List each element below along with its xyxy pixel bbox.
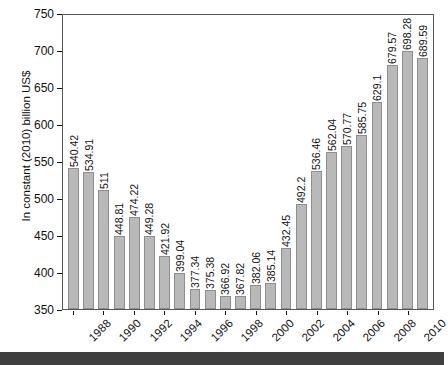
bar-value-label: 562.04 bbox=[326, 119, 338, 151]
bar: 689.59 bbox=[417, 58, 428, 309]
y-tick-mark bbox=[57, 125, 62, 126]
bar-series: 540.42534.91511448.81474.22449.28421.923… bbox=[63, 15, 433, 309]
bar-column: 536.46 bbox=[309, 15, 324, 309]
bar-value-label: 511 bbox=[98, 172, 110, 189]
x-tick-label: 1988 bbox=[86, 317, 113, 344]
x-tick-mark bbox=[225, 311, 226, 315]
x-tick-label: 2008 bbox=[391, 317, 418, 344]
x-tick-label: 1998 bbox=[239, 317, 266, 344]
bar: 511 bbox=[98, 190, 109, 309]
y-tick-label: 550 bbox=[34, 155, 54, 169]
bar-column: 540.42 bbox=[66, 15, 81, 309]
bar-value-label: 382.06 bbox=[250, 252, 262, 284]
bar-column: 698.28 bbox=[400, 15, 415, 309]
x-tick-label: 1996 bbox=[208, 317, 235, 344]
y-tick-label: 650 bbox=[34, 81, 54, 95]
bar: 562.04 bbox=[326, 152, 337, 309]
x-tick-label: 2004 bbox=[330, 317, 357, 344]
bar-column: 382.06 bbox=[248, 15, 263, 309]
bar-value-label: 421.92 bbox=[159, 223, 171, 255]
bar: 385.14 bbox=[265, 283, 276, 309]
bar-value-label: 540.42 bbox=[68, 135, 80, 167]
x-tick-mark bbox=[256, 311, 257, 315]
bar: 474.22 bbox=[129, 217, 140, 309]
x-tick-mark bbox=[164, 311, 165, 315]
bar-value-label: 366.92 bbox=[219, 263, 231, 295]
bar: 449.28 bbox=[144, 236, 155, 309]
x-tick-mark bbox=[103, 311, 104, 315]
bar-column: 492.2 bbox=[294, 15, 309, 309]
bar-column: 399.04 bbox=[172, 15, 187, 309]
y-tick-mark bbox=[57, 273, 62, 274]
bar: 367.82 bbox=[235, 296, 246, 309]
bar-column: 629.1 bbox=[369, 15, 384, 309]
y-tick-mark bbox=[57, 236, 62, 237]
y-tick-label: 750 bbox=[34, 7, 54, 21]
bar: 536.46 bbox=[311, 171, 322, 309]
bar: 399.04 bbox=[174, 273, 185, 309]
bar-column: 679.57 bbox=[385, 15, 400, 309]
bar-value-label: 679.57 bbox=[386, 32, 398, 64]
bar-value-label: 492.2 bbox=[295, 177, 307, 203]
bar: 421.92 bbox=[159, 256, 170, 309]
bar: 629.1 bbox=[372, 102, 383, 309]
bar-value-label: 448.81 bbox=[113, 203, 125, 235]
y-tick-label: 500 bbox=[34, 192, 54, 206]
x-tick-mark bbox=[317, 311, 318, 315]
bar-value-label: 367.82 bbox=[234, 263, 246, 295]
bar-column: 570.77 bbox=[339, 15, 354, 309]
bar-value-label: 449.28 bbox=[143, 202, 155, 234]
bar-column: 421.92 bbox=[157, 15, 172, 309]
y-tick-mark bbox=[57, 199, 62, 200]
bar-value-label: 536.46 bbox=[310, 138, 322, 170]
bar-column: 474.22 bbox=[127, 15, 142, 309]
bar-column: 511 bbox=[96, 15, 111, 309]
bar-value-label: 689.59 bbox=[417, 25, 429, 57]
bar-value-label: 399.04 bbox=[174, 240, 186, 272]
x-tick-label: 2000 bbox=[269, 317, 296, 344]
bar: 377.34 bbox=[190, 289, 201, 309]
x-tick-mark bbox=[134, 311, 135, 315]
bar-value-label: 375.38 bbox=[204, 257, 216, 289]
y-tick-label: 600 bbox=[34, 118, 54, 132]
x-tick-label: 1994 bbox=[178, 317, 205, 344]
bar-column: 562.04 bbox=[324, 15, 339, 309]
bar-value-label: 432.45 bbox=[280, 215, 292, 247]
bar: 534.91 bbox=[83, 172, 94, 309]
plot-area: 540.42534.91511448.81474.22449.28421.923… bbox=[62, 14, 434, 310]
bar-value-label: 385.14 bbox=[265, 250, 277, 282]
bar: 432.45 bbox=[281, 248, 292, 309]
bar-column: 366.92 bbox=[218, 15, 233, 309]
y-tick-mark bbox=[57, 51, 62, 52]
x-tick-mark bbox=[286, 311, 287, 315]
y-tick-mark bbox=[57, 162, 62, 163]
bar-column: 449.28 bbox=[142, 15, 157, 309]
y-tick-label: 350 bbox=[34, 303, 54, 317]
bar: 366.92 bbox=[220, 296, 231, 309]
bar-column: 448.81 bbox=[112, 15, 127, 309]
y-axis-ticks: 350400450500550600650700750 bbox=[20, 0, 54, 349]
bar-value-label: 474.22 bbox=[128, 184, 140, 216]
x-tick-label: 1990 bbox=[117, 317, 144, 344]
x-tick-label: 2002 bbox=[300, 317, 327, 344]
x-tick-mark bbox=[378, 311, 379, 315]
bar-column: 689.59 bbox=[415, 15, 430, 309]
bar: 375.38 bbox=[205, 290, 216, 309]
y-tick-label: 700 bbox=[34, 44, 54, 58]
y-tick-mark bbox=[57, 88, 62, 89]
bar-value-label: 629.1 bbox=[371, 75, 383, 101]
bar-column: 385.14 bbox=[263, 15, 278, 309]
bar-value-label: 534.91 bbox=[83, 139, 95, 171]
bar-column: 585.75 bbox=[354, 15, 369, 309]
y-tick-mark bbox=[57, 310, 62, 311]
chart-figure: In constant (2010) billion US$ 350400450… bbox=[0, 0, 444, 349]
bar: 382.06 bbox=[250, 285, 261, 309]
bar-column: 367.82 bbox=[233, 15, 248, 309]
x-tick-label: 1992 bbox=[147, 317, 174, 344]
x-tick-label: 2010 bbox=[422, 317, 448, 344]
y-tick-label: 450 bbox=[34, 229, 54, 243]
y-tick-mark bbox=[57, 14, 62, 15]
y-tick-label: 400 bbox=[34, 266, 54, 280]
bar: 698.28 bbox=[402, 51, 413, 309]
x-tick-label: 2006 bbox=[361, 317, 388, 344]
